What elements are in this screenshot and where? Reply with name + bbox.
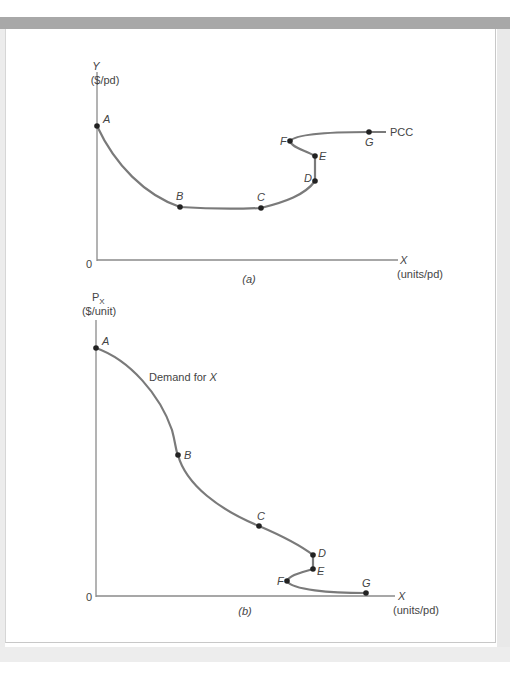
panel-b-origin: 0 <box>86 591 92 603</box>
panel-a-caption: (a) <box>242 273 256 285</box>
panel-b-y-label: PX <box>92 291 105 306</box>
panel-a-label-E: E <box>319 150 327 162</box>
panel-b-label-C: C <box>257 510 265 522</box>
panel-a-y-units: ($/pd) <box>91 74 120 86</box>
panel-b-label-D: D <box>318 547 326 559</box>
panel-a: Y ($/pd) 0 X (units/pd) (a) PCC A B C D … <box>86 60 443 285</box>
panel-b-x-label: X <box>397 590 406 602</box>
panel-b-caption: (b) <box>238 605 252 617</box>
panel-a-x-label: X <box>399 254 408 266</box>
panel-b-label-G: G <box>362 577 371 589</box>
panel-b-point-C <box>256 523 262 529</box>
pcc-curve <box>97 126 386 209</box>
panel-a-label-F: F <box>280 135 288 147</box>
panel-a-label-C: C <box>257 191 265 203</box>
panel-a-point-G <box>366 129 372 135</box>
panel-a-label-D: D <box>304 172 312 184</box>
panel-a-point-E <box>312 153 318 159</box>
panel-b-label-E: E <box>317 565 325 577</box>
panel-a-label-B: B <box>176 190 183 202</box>
panel-a-point-C <box>258 205 264 211</box>
panel-b-label-B: B <box>184 449 191 461</box>
panel-a-label-G: G <box>365 136 374 148</box>
panel-b-point-E <box>310 566 316 572</box>
panel-a-label-A: A <box>102 113 110 125</box>
figure-svg: Y ($/pd) 0 X (units/pd) (a) PCC A B C D … <box>0 0 530 680</box>
panel-a-y-label: Y <box>92 60 100 72</box>
pcc-label: PCC <box>390 126 413 138</box>
panel-a-x-units: (units/pd) <box>397 268 443 280</box>
panel-a-point-B <box>177 204 183 210</box>
panel-a-point-F <box>287 138 293 144</box>
panel-b-point-D <box>310 552 316 558</box>
panel-b-x-units: (units/pd) <box>393 604 439 616</box>
panel-b-point-G <box>363 590 369 596</box>
panel-b-point-A <box>93 345 99 351</box>
panel-b-label-A: A <box>101 335 109 347</box>
panel-b: PX ($/unit) 0 X (units/pd) (b) Demand fo… <box>82 291 439 617</box>
panel-b-point-F <box>284 578 290 584</box>
panel-b-label-F: F <box>277 575 285 587</box>
panel-b-point-B <box>175 452 181 458</box>
panel-a-origin: 0 <box>86 258 92 270</box>
panel-b-y-units: ($/unit) <box>82 305 116 317</box>
panel-a-point-D <box>312 178 318 184</box>
demand-label: Demand for X <box>149 371 218 383</box>
panel-a-point-A <box>94 123 100 129</box>
